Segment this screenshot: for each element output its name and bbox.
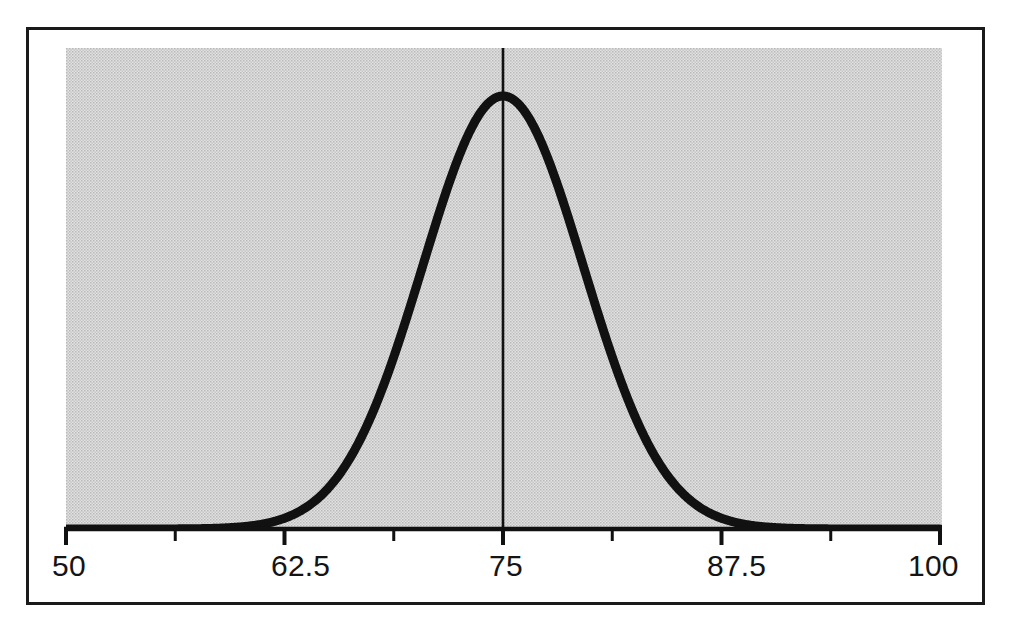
x-tick-label-50: 50 — [52, 551, 86, 581]
figure-root: 50 62.5 75 87.5 100 — [0, 0, 1012, 633]
x-tick-label-87-5: 87.5 — [707, 551, 766, 581]
x-axis-tick-group — [66, 529, 940, 545]
chart-stage — [0, 0, 1012, 633]
x-tick-label-100: 100 — [908, 551, 959, 581]
x-tick-label-62-5: 62.5 — [271, 551, 330, 581]
normal-distribution-chart — [0, 0, 1012, 633]
x-tick-label-75: 75 — [489, 551, 523, 581]
